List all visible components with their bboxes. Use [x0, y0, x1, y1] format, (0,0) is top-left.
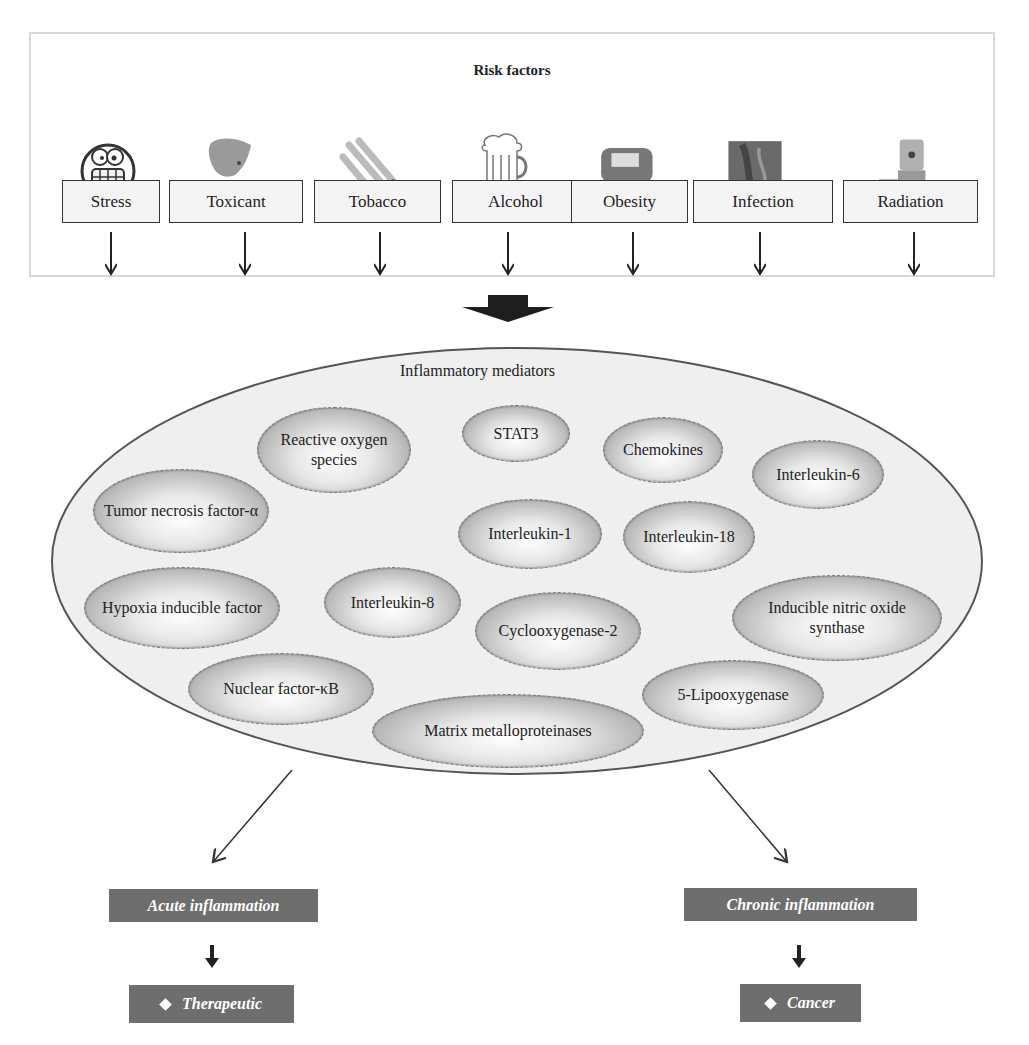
arrow-chronic-to-cancer: [792, 945, 806, 968]
risk-factor-stress: Stress: [62, 180, 160, 223]
mediator-5-lipooxygenase: 5-Lipooxygenase: [642, 660, 824, 730]
inflammatory-mediators-title: Inflammatory mediators: [400, 362, 555, 380]
mediator-nuclear-factor-kappa-b: Nuclear factor-κB: [188, 653, 374, 725]
mediator-label: Nuclear factor-κB: [223, 679, 339, 699]
risk-factor-label: Stress: [91, 192, 132, 212]
arrow-down-icon: [374, 232, 386, 276]
risk-factor-tobacco: Tobacco: [314, 180, 441, 223]
chronic-inflammation-box: Chronic inflammation: [684, 888, 917, 921]
mediator-label: Cyclooxygenase-2: [498, 621, 617, 641]
mediator-hypoxia-inducible-factor: Hypoxia inducible factor: [84, 567, 280, 649]
risk-factor-infection: Infection: [693, 180, 833, 223]
arrow-down-icon: [627, 232, 639, 276]
mediator-interleukin-1: Interleukin-1: [458, 499, 602, 569]
mediator-tumor-necrosis-factor-alpha: Tumor necrosis factor-α: [93, 469, 269, 553]
mediator-chemokines: Chemokines: [603, 417, 723, 483]
risk-factor-radiation: Radiation: [843, 180, 978, 223]
diamond-bullet-icon: [159, 998, 172, 1011]
cancer-box: Cancer: [740, 984, 861, 1022]
arrow-down-icon: [908, 232, 920, 276]
mediator-label: Tumor necrosis factor-α: [104, 501, 258, 521]
risk-factor-toxicant: Toxicant: [169, 180, 303, 223]
risk-factors-title: Risk factors: [31, 62, 993, 79]
risk-factor-obesity: Obesity: [571, 180, 688, 223]
mediator-label: 5-Lipooxygenase: [677, 685, 788, 705]
mediator-label: Interleukin-1: [488, 524, 572, 544]
risk-factor-label: Radiation: [877, 192, 943, 212]
mediator-label: Hypoxia inducible factor: [102, 598, 262, 618]
arrow-down-icon: [239, 232, 251, 276]
risk-factor-label: Infection: [732, 192, 793, 212]
acute-inflammation-label: Acute inflammation: [147, 897, 279, 915]
mediator-matrix-metalloproteinases: Matrix metalloproteinases: [372, 694, 644, 768]
therapeutic-box: Therapeutic: [129, 985, 294, 1023]
mediator-label: Reactive oxygen species: [258, 430, 410, 470]
risk-factor-label: Obesity: [603, 192, 656, 212]
arrow-to-acute: [213, 770, 292, 862]
mediator-label: STAT3: [494, 424, 539, 444]
acute-inflammation-box: Acute inflammation: [109, 889, 318, 922]
mediator-interleukin-18: Interleukin-18: [623, 501, 755, 573]
mediator-label: Inducible nitric oxide synthase: [747, 598, 927, 638]
mediator-stat3: STAT3: [462, 405, 570, 462]
risk-factor-label: Toxicant: [206, 192, 265, 212]
diamond-bullet-icon: [764, 997, 777, 1010]
risk-factor-alcohol: Alcohol: [452, 180, 579, 223]
arrow-to-chronic: [709, 770, 787, 862]
therapeutic-label: Therapeutic: [182, 995, 262, 1013]
chronic-inflammation-label: Chronic inflammation: [726, 896, 874, 914]
mediator-label: Interleukin-8: [351, 593, 435, 613]
risk-factor-label: Alcohol: [488, 192, 543, 212]
mediator-interleukin-8: Interleukin-8: [324, 567, 461, 638]
mediator-label: Interleukin-18: [643, 527, 735, 547]
mediator-interleukin-6: Interleukin-6: [752, 440, 884, 509]
mediator-label: Chemokines: [623, 440, 703, 460]
risk-factors-panel: Risk factors: [29, 32, 995, 277]
mediator-reactive-oxygen-species: Reactive oxygen species: [257, 407, 411, 493]
mediator-cyclooxygenase-2: Cyclooxygenase-2: [475, 592, 641, 670]
mediator-inducible-nitric-oxide-synthase: Inducible nitric oxide synthase: [732, 575, 942, 661]
arrow-down-icon: [502, 232, 514, 276]
mediator-label: Matrix metalloproteinases: [424, 721, 592, 741]
arrow-down-icon: [754, 232, 766, 276]
arrow-acute-to-therapeutic: [205, 945, 219, 968]
risk-factor-label: Tobacco: [349, 192, 406, 212]
mediator-label: Interleukin-6: [776, 465, 860, 485]
big-down-arrow-icon: [462, 295, 554, 322]
cancer-label: Cancer: [787, 994, 835, 1012]
arrow-down-icon: [105, 232, 117, 276]
